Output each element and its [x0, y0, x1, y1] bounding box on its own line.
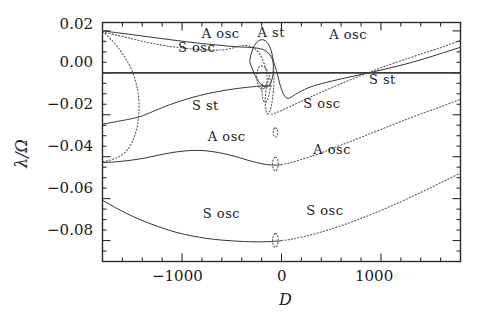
y-tick-label: −0.06 [47, 179, 93, 197]
data-curve [103, 31, 461, 99]
x-axis-title: D [279, 290, 292, 309]
plot-canvas [0, 0, 487, 322]
curve-annotation-s-osc-low-right: S osc [306, 203, 343, 218]
y-tick-label: 0.02 [60, 15, 93, 33]
x-tick-label: 0 [277, 267, 287, 285]
data-curve [103, 150, 282, 165]
data-curve [103, 31, 140, 161]
y-tick-label: −0.04 [47, 137, 93, 155]
y-tick-label: 0.00 [60, 53, 93, 71]
x-tick-label: 1000 [355, 267, 393, 285]
curve-annotation-a-st-top: A st [258, 25, 285, 40]
curve-annotation-s-osc-low-left: S osc [203, 206, 240, 221]
y-tick-label: −0.02 [47, 95, 93, 113]
curve-annotation-a-osc-mid-right: A osc [313, 142, 351, 157]
curve-annotation-a-osc-top-left: A osc [202, 26, 240, 41]
y-axis-title-wrapper: λ/Ω [10, 112, 32, 172]
data-curve [273, 157, 279, 171]
data-curves [103, 31, 461, 247]
data-curve [103, 86, 272, 124]
curve-annotation-s-osc-top-left: S osc [178, 40, 215, 55]
curve-annotation-s-st-left: S st [192, 98, 219, 113]
data-curve [103, 200, 282, 242]
curve-annotation-a-osc-mid-left: A osc [208, 129, 246, 144]
y-tick-label: −0.08 [47, 221, 93, 239]
curve-annotation-a-osc-top-right: A osc [329, 27, 367, 42]
x-tick-label: −1000 [152, 267, 203, 285]
curve-annotation-s-osc-right: S osc [303, 96, 340, 111]
y-axis-title: λ/Ω [12, 139, 31, 168]
curve-annotation-s-st-right: S st [369, 72, 396, 87]
data-curve [273, 128, 278, 137]
data-curve [273, 233, 279, 247]
data-curve [272, 41, 461, 115]
figure-container: 0.02 0.00 −0.02 −0.04 −0.06 −0.08 −1000 … [0, 0, 487, 322]
